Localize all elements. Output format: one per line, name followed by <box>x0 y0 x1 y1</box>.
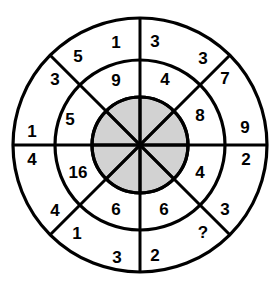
cell-outer-left-mid: 1 <box>27 122 36 141</box>
cell-outer-lower-left-diag: 1 <box>72 224 81 243</box>
cell-outer-upper-left-diag: 5 <box>73 47 82 66</box>
cell-mid-left-lower: 16 <box>69 163 88 182</box>
circular-puzzle-diagram: 1 3 5 3 3 7 1 9 4 2 4 3 1 3 2 9 4 8 5 16… <box>0 0 279 290</box>
cell-mid-bottom-right: 6 <box>159 200 168 219</box>
cell-outer-top-left: 1 <box>111 33 120 52</box>
cell-mid-right-lower: 4 <box>195 163 205 182</box>
cell-outer-left-upper-diag: 3 <box>50 70 59 89</box>
cell-outer-top-right: 3 <box>150 32 159 51</box>
cell-mid-top-right: 4 <box>160 70 170 89</box>
cell-mid-left-upper: 5 <box>65 110 74 129</box>
cell-outer-right-upper-diag: 7 <box>220 69 229 88</box>
cell-outer-right-lower-diag: 3 <box>220 200 229 219</box>
cell-outer-right-mid-lower: 2 <box>241 150 250 169</box>
cell-mid-bottom-right-diag-unknown: ? <box>198 223 208 242</box>
cell-outer-left-mid-lower: 4 <box>27 150 37 169</box>
cell-mid-right-upper: 8 <box>195 106 204 125</box>
cell-mid-bottom-left: 6 <box>111 200 120 219</box>
cell-outer-right-mid: 9 <box>240 118 249 137</box>
hub-spoke-group <box>92 97 188 193</box>
cell-mid-top-left: 9 <box>111 71 120 90</box>
cell-outer-bottom-right: 2 <box>150 246 159 265</box>
puzzle-figure: 1 3 5 3 3 7 1 9 4 2 4 3 1 3 2 9 4 8 5 16… <box>0 0 279 290</box>
cell-outer-upper-right-diag: 3 <box>198 49 207 68</box>
cell-outer-bottom-left: 3 <box>112 248 121 267</box>
cell-outer-left-lower-diag: 4 <box>50 201 60 220</box>
